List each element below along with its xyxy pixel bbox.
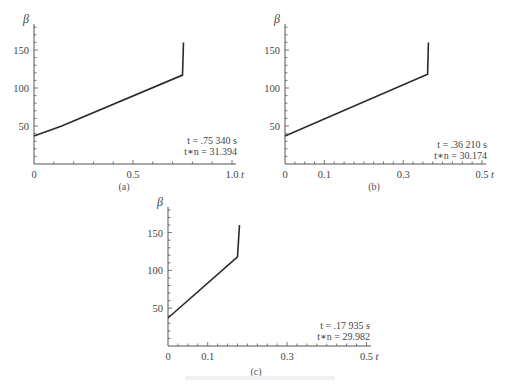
x-tick-label: 0 <box>282 169 287 180</box>
y-tick-label: 150 <box>13 45 29 56</box>
x-tick-label: 0.3 <box>397 169 410 180</box>
beta-curve <box>34 42 184 135</box>
beta-curve <box>168 225 240 318</box>
x-axis-label: t <box>241 169 245 180</box>
result-annotation: t∗n = 29.982 <box>317 331 370 342</box>
y-tick-label: 100 <box>264 83 280 94</box>
y-tick-label: 150 <box>264 45 280 56</box>
figure-caption-faded <box>185 376 335 380</box>
result-annotation: t∗n = 30.174 <box>434 150 487 161</box>
beta-curve <box>285 42 428 135</box>
y-tick-label: 50 <box>153 303 164 314</box>
x-tick-label: 0.1 <box>318 169 331 180</box>
x-tick-label: 0.5 <box>360 351 373 362</box>
figure-panels: 5010015000.51.0tβt = .75 340 st∗n = 31.3… <box>0 0 508 386</box>
result-annotation: t∗n = 31.394 <box>184 146 237 157</box>
y-axis-label: β <box>273 12 280 26</box>
result-annotation: t = .17 935 s <box>320 320 370 331</box>
x-axis-label: t <box>491 169 495 180</box>
y-tick-label: 100 <box>13 83 29 94</box>
panel-subtitle: (b) <box>368 181 380 193</box>
x-tick-label: 0.1 <box>201 351 214 362</box>
x-tick-label: 0 <box>31 169 36 180</box>
chart-panel-b: 5010015000.10.30.5tβt = .36 210 st∗n = 3… <box>264 12 495 193</box>
x-tick-label: 0.3 <box>281 351 294 362</box>
y-tick-label: 100 <box>147 265 163 276</box>
x-tick-label: 0.5 <box>126 169 139 180</box>
y-axis-label: β <box>22 12 29 26</box>
result-annotation: t = .75 340 s <box>187 135 237 146</box>
x-tick-label: 0.5 <box>475 169 488 180</box>
y-tick-label: 150 <box>147 228 163 239</box>
chart-panel-a: 5010015000.51.0tβt = .75 340 st∗n = 31.3… <box>13 12 245 193</box>
y-tick-label: 50 <box>19 121 30 132</box>
x-tick-label: 1.0 <box>225 169 238 180</box>
y-axis-label: β <box>156 195 163 209</box>
panel-subtitle: (a) <box>118 181 129 193</box>
x-tick-label: 0 <box>165 351 170 362</box>
chart-panel-c: 5010015000.10.30.5tβt = .17 935 st∗n = 2… <box>147 195 379 378</box>
x-axis-label: t <box>376 351 380 362</box>
result-annotation: t = .36 210 s <box>437 139 487 150</box>
y-tick-label: 50 <box>270 121 281 132</box>
